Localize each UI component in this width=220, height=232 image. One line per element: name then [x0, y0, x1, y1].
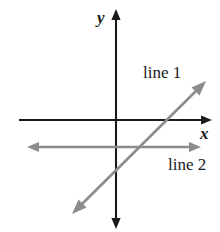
y-axis-arrowhead-top: [111, 9, 120, 20]
line-2-arrowhead-right: [189, 142, 201, 152]
line-1-label: line 1: [143, 64, 181, 81]
coordinate-plane-figure: y x line 1 line 2: [0, 0, 220, 232]
graph-canvas: [0, 0, 220, 232]
line-2-label: line 2: [168, 156, 206, 173]
line-2-graph: [27, 142, 201, 152]
y-axis: [111, 9, 120, 229]
y-axis-arrowhead-bottom: [111, 218, 120, 229]
x-axis-label: x: [200, 125, 209, 142]
y-axis-label: y: [97, 9, 105, 26]
line-2-arrowhead-left: [27, 142, 39, 152]
